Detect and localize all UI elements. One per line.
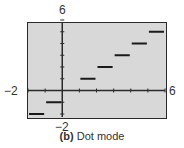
x-max-label: 6 [169,85,176,97]
plot-area [0,0,184,148]
x-min-label: −2 [4,85,18,97]
figure-caption: (b) Dot mode [0,130,184,142]
y-max-label: 6 [59,4,66,16]
caption-tag: (b) [60,130,74,142]
caption-text: Dot mode [77,130,125,142]
